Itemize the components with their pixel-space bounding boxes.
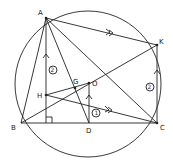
label-k: K <box>159 38 164 46</box>
side-ab <box>21 18 46 123</box>
segment-label-kc: 2 <box>148 83 152 90</box>
circumcircle <box>15 11 161 157</box>
geometry-diagram: A B C K D O H G 2 2 1 <box>0 0 173 168</box>
point-g-dot <box>74 87 77 90</box>
point-c-dot <box>156 122 159 125</box>
label-b: B <box>11 124 16 132</box>
segment-ak <box>46 18 157 45</box>
segment-hc <box>46 95 157 123</box>
label-d: D <box>86 127 91 135</box>
diagram-svg: A B C K D O H G 2 2 1 <box>0 0 173 168</box>
parallel-mark-ak-2 <box>109 30 113 36</box>
point-a-dot <box>45 17 48 20</box>
label-g: G <box>73 78 78 86</box>
point-o-dot <box>88 82 91 85</box>
segment-label-ah: 2 <box>51 66 55 73</box>
label-h: H <box>37 92 42 100</box>
point-h-dot <box>45 94 48 97</box>
segment-label-od: 1 <box>95 109 99 116</box>
right-angle-mark <box>46 117 52 123</box>
euler-line-ho <box>46 83 89 95</box>
label-a: A <box>38 9 43 17</box>
point-k-dot <box>156 44 159 47</box>
label-o: O <box>92 80 98 88</box>
label-c: C <box>160 124 165 132</box>
